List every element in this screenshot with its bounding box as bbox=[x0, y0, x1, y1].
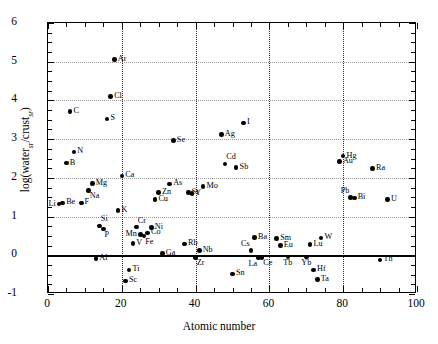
y-tick-minor bbox=[48, 275, 52, 276]
y-tick-minor bbox=[48, 110, 52, 111]
data-point-label: N bbox=[77, 147, 83, 155]
data-point-label: Fe bbox=[145, 238, 153, 246]
x-tick-minor-top bbox=[233, 23, 234, 27]
data-point-label: Cd bbox=[226, 153, 236, 161]
data-point bbox=[252, 235, 257, 240]
y-tick-major-right bbox=[409, 255, 415, 256]
data-point-label: Zn bbox=[162, 188, 171, 196]
y-tick-major bbox=[48, 178, 54, 179]
data-point-label: Cs bbox=[241, 240, 250, 248]
data-point-label: Mn bbox=[125, 230, 136, 238]
data-point-label: B bbox=[70, 159, 75, 167]
y-tick-label: 6 bbox=[0, 16, 17, 28]
y-tick-minor-right bbox=[411, 197, 415, 198]
y-tick-minor bbox=[48, 246, 52, 247]
data-point bbox=[131, 241, 136, 246]
data-point bbox=[127, 268, 132, 273]
data-point-label: Mo bbox=[206, 182, 217, 190]
data-point-label: Mg bbox=[96, 179, 107, 187]
x-tick-minor bbox=[380, 288, 381, 292]
y-tick-minor-right bbox=[411, 42, 415, 43]
y-tick-major bbox=[48, 139, 54, 140]
gridline-horizontal bbox=[48, 62, 415, 63]
data-point bbox=[230, 272, 235, 277]
data-point bbox=[112, 57, 117, 62]
data-point-label: La bbox=[248, 260, 257, 268]
x-tick-major bbox=[343, 286, 344, 292]
data-point bbox=[370, 166, 375, 171]
y-tick-minor-right bbox=[411, 129, 415, 130]
x-tick-major bbox=[417, 286, 418, 292]
data-point-label: Ti bbox=[133, 265, 140, 273]
x-tick-major-top bbox=[343, 23, 344, 29]
data-point-label: U bbox=[391, 195, 397, 203]
gridline-horizontal bbox=[48, 100, 415, 101]
x-tick-minor-top bbox=[288, 23, 289, 27]
y-tick-label: -1 bbox=[0, 287, 17, 299]
data-point-label: V bbox=[136, 239, 142, 247]
data-point-label: K bbox=[122, 206, 128, 214]
data-point bbox=[385, 197, 390, 202]
data-point bbox=[219, 132, 224, 137]
x-tick-minor-top bbox=[399, 23, 400, 27]
data-point bbox=[197, 248, 202, 253]
y-tick-label: 5 bbox=[0, 55, 17, 67]
y-axis-title-prefix: log(water bbox=[19, 148, 31, 192]
y-tick-minor bbox=[48, 159, 52, 160]
y-tick-minor-right bbox=[411, 188, 415, 189]
data-point bbox=[201, 184, 206, 189]
data-point bbox=[60, 201, 65, 206]
data-point bbox=[68, 109, 73, 114]
y-tick-minor bbox=[48, 33, 52, 34]
y-tick-major bbox=[48, 294, 54, 295]
y-tick-minor bbox=[48, 71, 52, 72]
data-point-label: Ag bbox=[225, 130, 235, 138]
x-tick-minor-top bbox=[362, 23, 363, 27]
y-axis-title: log(watersr/crustsr) bbox=[19, 65, 34, 235]
data-point-label: Pb bbox=[341, 187, 350, 195]
y-tick-minor-right bbox=[411, 168, 415, 169]
y-tick-minor bbox=[48, 120, 52, 121]
x-tick-minor-top bbox=[325, 23, 326, 27]
x-tick-minor bbox=[140, 288, 141, 292]
x-tick-minor-top bbox=[177, 23, 178, 27]
x-tick-major-top bbox=[48, 23, 49, 29]
data-point bbox=[249, 248, 254, 253]
y-tick-minor bbox=[48, 149, 52, 150]
y-tick-minor-right bbox=[411, 207, 415, 208]
y-axis-title-mid: /crust bbox=[19, 117, 31, 143]
plot-area: LiBeBCNFNaMgAlSiPSClArKCaScTiVCrMnFeCoNi… bbox=[47, 22, 416, 293]
x-tick-minor-top bbox=[85, 23, 86, 27]
x-tick-minor bbox=[214, 288, 215, 292]
data-point bbox=[352, 196, 357, 201]
y-tick-minor bbox=[48, 42, 52, 43]
x-axis-title: Atomic number bbox=[0, 320, 438, 332]
x-tick-minor bbox=[177, 288, 178, 292]
x-tick-minor bbox=[159, 288, 160, 292]
x-tick-minor bbox=[288, 288, 289, 292]
y-tick-minor bbox=[48, 236, 52, 237]
x-tick-major bbox=[196, 286, 197, 292]
x-tick-major-top bbox=[196, 23, 197, 29]
data-point-label: Ni bbox=[155, 223, 163, 231]
x-tick-minor bbox=[85, 288, 86, 292]
y-tick-label: 0 bbox=[0, 248, 17, 260]
y-tick-minor-right bbox=[411, 226, 415, 227]
data-point bbox=[149, 225, 154, 230]
y-tick-minor-right bbox=[411, 81, 415, 82]
data-point-label: Zr bbox=[197, 259, 205, 267]
x-tick-minor bbox=[306, 288, 307, 292]
data-point bbox=[319, 236, 324, 241]
data-point-label: Cr bbox=[138, 217, 146, 225]
y-tick-minor bbox=[48, 81, 52, 82]
x-tick-label: 20 bbox=[101, 297, 141, 309]
y-tick-label: 2 bbox=[0, 171, 17, 183]
y-tick-label: 4 bbox=[0, 93, 17, 105]
data-point bbox=[308, 242, 313, 247]
y-axis-title-suffix: ) bbox=[19, 107, 31, 111]
y-tick-minor-right bbox=[411, 71, 415, 72]
data-point bbox=[72, 150, 77, 155]
data-point-label: W bbox=[324, 233, 332, 241]
y-tick-label: 3 bbox=[0, 132, 17, 144]
data-point-label: Bi bbox=[358, 193, 366, 201]
